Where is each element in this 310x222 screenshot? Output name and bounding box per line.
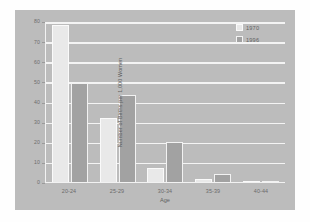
legend-swatch-icon [236,24,243,31]
bar-1970-40-44 [243,181,260,182]
y-tick-mark [42,143,45,144]
y-tick-label: 10 [18,160,40,165]
y-tick-label: 30 [18,120,40,125]
y-tick-mark [42,22,45,23]
legend-swatch-icon [236,36,243,43]
y-tick-label: 20 [18,140,40,145]
y-tick-label: 50 [18,80,40,85]
y-tick-label: 0 [18,180,40,185]
y-tick-label: 60 [18,60,40,65]
x-tick-label: 20-24 [45,188,93,194]
chart-figure: Number of Births per 1,000 Women 8070605… [0,0,310,222]
x-tick-label: 40-44 [237,188,285,194]
y-tick-label: 70 [18,40,40,45]
chart-legend: 19701996 [236,24,288,48]
legend-label: 1970 [246,25,259,31]
y-tick-label: 80 [18,19,40,24]
y-tick-label: 40 [18,100,40,105]
legend-item-1996: 1996 [236,36,288,43]
bar-1996-35-39 [214,174,231,182]
y-tick-mark [42,183,45,184]
x-tick-label: 35-39 [189,188,237,194]
y-tick-mark [42,163,45,164]
y-tick-mark [42,62,45,63]
x-tick-label: 30-34 [141,188,189,194]
y-tick-mark [42,103,45,104]
y-tick-mark [42,42,45,43]
x-axis-tick-labels: 20-2425-2930-3435-3940-44 [45,188,285,194]
x-axis-title: Age [45,197,285,203]
legend-item-1970: 1970 [236,24,288,31]
y-axis-title: Number of Births per 1,000 Women [39,22,200,183]
bar-1996-40-44 [262,181,279,182]
x-tick-label: 25-29 [93,188,141,194]
y-tick-mark [42,123,45,124]
legend-label: 1996 [246,37,259,43]
y-tick-mark [42,82,45,83]
